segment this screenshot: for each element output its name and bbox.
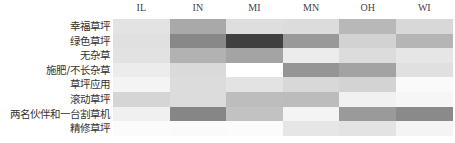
- heatmap-cell: [396, 77, 453, 92]
- heatmap-cell: [226, 63, 283, 78]
- heatmap-cell: [339, 121, 396, 136]
- heatmap-cell: [170, 92, 227, 107]
- column-header: IL: [113, 2, 170, 13]
- heatmap-cell: [113, 34, 170, 49]
- heatmap-cell: [339, 63, 396, 78]
- heatmap-cell: [396, 34, 453, 49]
- heatmap-cell: [113, 92, 170, 107]
- heatmap-cell: [283, 107, 340, 122]
- column-header: WI: [396, 2, 453, 13]
- heatmap-cell: [339, 48, 396, 63]
- heatmap-cell: [113, 77, 170, 92]
- heatmap-cell: [170, 107, 227, 122]
- heatmap-cell: [226, 92, 283, 107]
- heatmap-cell: [170, 34, 227, 49]
- heatmap-cell: [113, 107, 170, 122]
- row-label: 施肥/不长杂草: [46, 63, 110, 78]
- heatmap-cell: [283, 77, 340, 92]
- heatmap-cell: [170, 48, 227, 63]
- heatmap-cell: [170, 121, 227, 136]
- heatmap-cell: [170, 19, 227, 34]
- heatmap-cell: [170, 63, 227, 78]
- row-label: 草坪应用: [70, 77, 110, 92]
- heatmap-cell: [339, 77, 396, 92]
- column-header: MI: [226, 2, 283, 13]
- heatmap-cell: [170, 77, 227, 92]
- heatmap-cell: [339, 34, 396, 49]
- row-label: 精修草坪: [70, 121, 110, 136]
- heatmap-cell: [339, 107, 396, 122]
- heatmap-cell: [113, 48, 170, 63]
- heatmap-cell: [339, 19, 396, 34]
- heatmap-cell: [396, 19, 453, 34]
- heatmap-cell: [226, 77, 283, 92]
- heatmap-cell: [396, 107, 453, 122]
- heatmap-cell: [283, 34, 340, 49]
- heatmap-cell: [226, 121, 283, 136]
- row-label: 无杂草: [80, 48, 110, 63]
- heatmap-cell: [339, 92, 396, 107]
- row-label: 滚动草坪: [70, 92, 110, 107]
- heatmap-cell: [283, 48, 340, 63]
- row-label: 幸福草坪: [70, 19, 110, 34]
- heatmap-cell: [396, 121, 453, 136]
- column-header: IN: [170, 2, 227, 13]
- row-label: 两名伙伴和一台割草机: [10, 107, 110, 122]
- heatmap-cell: [283, 92, 340, 107]
- heatmap-cell: [396, 92, 453, 107]
- heatmap-cell: [113, 63, 170, 78]
- column-header: OH: [339, 2, 396, 13]
- heatmap-cell: [226, 48, 283, 63]
- heatmap-cell: [283, 63, 340, 78]
- heatmap-cell: [283, 121, 340, 136]
- heatmap-cell: [396, 63, 453, 78]
- row-label: 绿色草坪: [70, 34, 110, 49]
- heatmap-cell: [283, 19, 340, 34]
- heatmap-cell: [113, 19, 170, 34]
- heatmap-cell: [226, 34, 283, 49]
- column-header: MN: [283, 2, 340, 13]
- heatmap-cell: [396, 48, 453, 63]
- heatmap-cell: [226, 19, 283, 34]
- heatmap-cell: [113, 121, 170, 136]
- heatmap-cell: [226, 107, 283, 122]
